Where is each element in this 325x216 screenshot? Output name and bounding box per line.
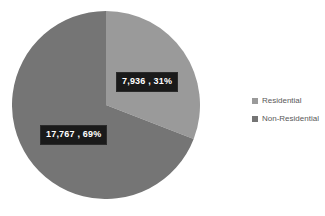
legend-item-residential[interactable]: Residential <box>252 93 319 109</box>
legend-swatch-icon-residential <box>252 98 258 104</box>
legend-item-non-residential[interactable]: Non-Residential <box>252 111 319 127</box>
pie-graphic <box>12 11 200 199</box>
pie-svg <box>12 11 200 199</box>
legend-label-non-residential: Non-Residential <box>262 115 319 123</box>
pie-chart-figure: 7,936 , 31% 17,767 , 69% Residential Non… <box>0 0 325 216</box>
legend-swatch-icon-non-residential <box>252 116 258 122</box>
legend-label-residential: Residential <box>262 97 302 105</box>
data-label-non-residential: 17,767 , 69% <box>40 125 107 145</box>
chart-legend: Residential Non-Residential <box>252 93 319 129</box>
data-label-residential: 7,936 , 31% <box>116 72 178 92</box>
